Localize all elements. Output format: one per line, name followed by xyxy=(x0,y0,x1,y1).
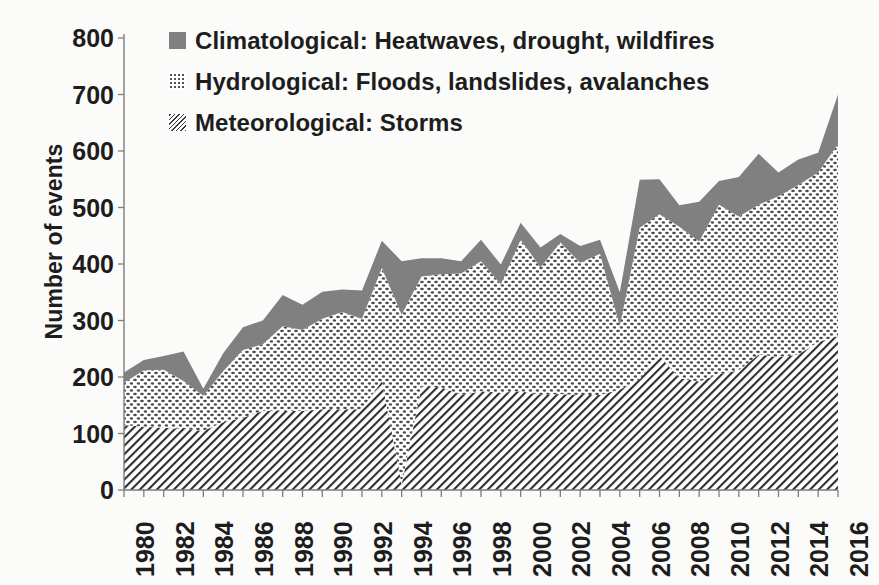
legend-label-hydrological: Hydrological: Floods, landslides, avalan… xyxy=(195,68,709,96)
chart-legend: Climatological: Heatwaves, drought, wild… xyxy=(169,20,715,143)
dotted-square-icon xyxy=(169,73,186,90)
hatched-square-icon xyxy=(169,114,186,131)
chart-figure: Number of events 01002003004005006007008… xyxy=(0,0,879,585)
legend-item-climatological: Climatological: Heatwaves, drought, wild… xyxy=(169,20,715,61)
legend-item-hydrological: Hydrological: Floods, landslides, avalan… xyxy=(169,61,715,102)
legend-label-meteorological: Meteorological: Storms xyxy=(195,109,463,137)
legend-item-meteorological: Meteorological: Storms xyxy=(169,102,715,143)
solid-square-icon xyxy=(169,32,186,49)
legend-label-climatological: Climatological: Heatwaves, drought, wild… xyxy=(195,27,715,55)
